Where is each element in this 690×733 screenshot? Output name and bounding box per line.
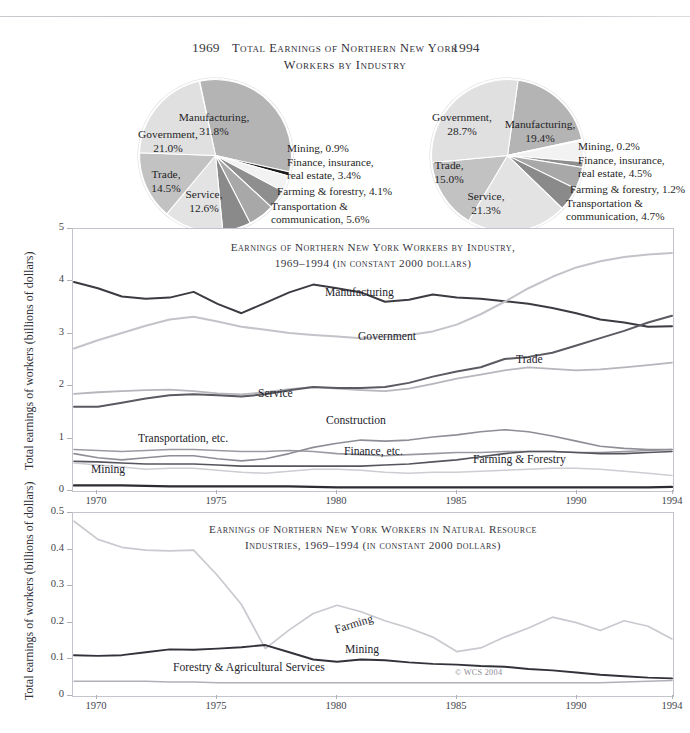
- x-axis-tick-label: 1994: [652, 700, 690, 711]
- y-axis-tick-mark: [67, 280, 72, 281]
- y-axis-tick-mark: [67, 695, 72, 696]
- x-axis-tick-label: 1980: [316, 495, 356, 506]
- y-axis-tick-label: 0.1: [34, 651, 64, 662]
- series-label-transportation: Transportation, etc.: [138, 432, 228, 445]
- series-label-finance: Finance, etc.: [344, 445, 403, 458]
- pie1969-service-name: Service,: [185, 188, 222, 200]
- x-axis-tick-mark: [216, 490, 217, 494]
- natural-chart-title: Earnings of Northern New York Workers in…: [73, 521, 673, 553]
- pie1994-label-transportation: Transportation & communication, 4.7%: [566, 197, 665, 224]
- series-label-government: Government: [358, 330, 416, 343]
- pie1969-mining-value: 0.9%: [326, 142, 349, 154]
- pie1994-label-farming: Farming & forestry, 1.2%: [570, 183, 685, 196]
- series-line: [74, 485, 672, 487]
- pie1994-manufacturing-name: Manufacturing,: [505, 118, 576, 130]
- series-label-trade: Trade: [516, 353, 543, 366]
- pie1969-label-finance: Finance, insurance, real estate, 3.4%: [287, 156, 374, 183]
- x-axis-tick-label: 1975: [196, 495, 236, 506]
- y-axis-tick-label: 5: [34, 221, 64, 232]
- pie1994-farming-value: 1.2%: [662, 183, 685, 195]
- series-label-manufacturing: Manufacturing: [325, 286, 394, 299]
- x-axis-tick-label: 1970: [76, 700, 116, 711]
- y-axis-tick-label: 2: [34, 378, 64, 389]
- pie1994-transportation-value: 4.7%: [641, 210, 664, 222]
- pie1969-transportation-name: Transportation &: [271, 200, 348, 212]
- pie1994-service-name: Service,: [467, 190, 504, 202]
- pie1994-label-finance: Finance, insurance, real estate, 4.5%: [578, 154, 665, 181]
- y-axis-tick-label: 0: [34, 483, 64, 494]
- pie1994-finance-name: Finance, insurance,: [578, 154, 665, 166]
- main-chart-title: Earnings of Northern New York Workers by…: [73, 239, 673, 271]
- pie1969-farming-name: Farming & forestry,: [277, 185, 366, 197]
- x-axis-tick-mark: [96, 490, 97, 494]
- x-axis-tick-label: 1980: [316, 700, 356, 711]
- pie1994-trade-value: 15.0%: [434, 173, 463, 185]
- x-axis-tick-label: 1994: [652, 495, 690, 506]
- y-axis-tick-label: 0.3: [34, 578, 64, 589]
- pie1969-trade-name: Trade,: [151, 168, 180, 180]
- copyright-notice: © WCS 2004: [455, 668, 502, 677]
- y-axis-tick-label: 0.4: [34, 542, 64, 553]
- pie-charts-section: 1969 1994 Total Earnings of Northern New…: [0, 28, 690, 228]
- y-axis-tick-mark: [67, 228, 72, 229]
- y-axis-tick-mark: [67, 622, 72, 623]
- x-axis-tick-mark: [336, 695, 337, 699]
- natural-resource-line-chart: Earnings of Northern New York Workers in…: [72, 512, 674, 697]
- pie1994-label-manufacturing: Manufacturing, 19.4%: [497, 118, 583, 145]
- pie1994-manufacturing-value: 19.4%: [525, 132, 554, 144]
- pie1994-mining-name: Mining,: [578, 140, 614, 152]
- y-axis-tick-mark: [67, 385, 72, 386]
- pie1969-label-farming: Farming & forestry, 4.1%: [277, 185, 392, 198]
- x-axis-tick-mark: [456, 695, 457, 699]
- pie1994-label-government: Government, 28.7%: [420, 111, 504, 138]
- top-divider-rule: [0, 16, 690, 17]
- y-axis-tick-mark: [67, 658, 72, 659]
- pie1994-finance-value: 4.5%: [629, 167, 652, 179]
- x-axis-tick-mark: [456, 490, 457, 494]
- main-line-chart: Earnings of Northern New York Workers by…: [72, 228, 674, 492]
- main-title-line1: Earnings of Northern New York Workers by…: [231, 241, 516, 253]
- pie1994-service-value: 21.3%: [471, 204, 500, 216]
- x-axis-tick-mark: [672, 490, 673, 494]
- pie-title-line2: Workers by Industry: [284, 58, 406, 72]
- pie1969-label-government: Government, 21.0%: [128, 128, 208, 155]
- pie1969-finance-name2: real estate,: [287, 169, 335, 181]
- y-axis-tick-label: 4: [34, 273, 64, 284]
- x-axis-tick-label: 1975: [196, 700, 236, 711]
- main-title-line2: 1969–1994 (in constant 2000 dollars): [275, 257, 472, 269]
- y-axis-tick-label: 0: [34, 688, 64, 699]
- pie1969-label-transportation: Transportation & communication, 5.6%: [271, 200, 370, 227]
- pie1969-mining-name: Mining,: [287, 142, 323, 154]
- x-axis-tick-label: 1970: [76, 495, 116, 506]
- y-axis-tick-mark: [67, 549, 72, 550]
- y-axis-tick-mark: [67, 585, 72, 586]
- pie1969-label-service: Service, 12.6%: [173, 188, 235, 215]
- y-axis-tick-label: 0.5: [34, 505, 64, 516]
- pie1994-label-service: Service, 21.3%: [455, 190, 517, 217]
- x-axis-tick-mark: [216, 695, 217, 699]
- y-axis-tick-mark: [67, 333, 72, 334]
- pie1994-transportation-name2: communication,: [566, 210, 638, 222]
- series-label-forestry-ag-services: Forestry & Agricultural Services: [173, 661, 325, 674]
- pie1969-transportation-name2: communication,: [271, 213, 343, 225]
- series-line: [74, 681, 672, 683]
- pie1969-finance-name: Finance, insurance,: [287, 156, 374, 168]
- pie1994-government-value: 28.7%: [447, 125, 476, 137]
- natural-title-line1: Earnings of Northern New York Workers in…: [209, 523, 537, 535]
- series-label-mining: Mining: [91, 463, 125, 476]
- series-label-farming-forestry: Farming & Forestry: [473, 453, 566, 466]
- pie-section-title: Total Earnings of Northern New York Work…: [120, 40, 570, 74]
- y-axis-tick-label: 3: [34, 326, 64, 337]
- pie1969-finance-value: 3.4%: [338, 169, 361, 181]
- pie1994-trade-name: Trade,: [434, 159, 463, 171]
- y-axis-tick-mark: [67, 512, 72, 513]
- pie1969-government-name: Government,: [138, 128, 198, 140]
- x-axis-tick-mark: [576, 695, 577, 699]
- y-axis-tick-mark: [67, 490, 72, 491]
- pie1969-transportation-value: 5.6%: [346, 213, 369, 225]
- x-axis-tick-label: 1990: [556, 495, 596, 506]
- x-axis-tick-mark: [576, 490, 577, 494]
- pie1969-government-value: 21.0%: [153, 142, 182, 154]
- pie1994-label-mining: Mining, 0.2%: [578, 140, 640, 153]
- series-line: [74, 363, 672, 395]
